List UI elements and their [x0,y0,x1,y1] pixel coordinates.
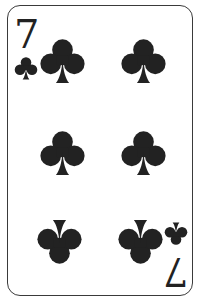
club-icon [36,219,83,266]
club-icon [120,129,167,176]
club-icon [39,37,86,84]
club-icon [117,219,164,266]
club-icon [164,222,188,246]
corner-rank-top-left: 7 [14,14,39,54]
corner-rank-bottom-right: 7 [163,252,188,292]
club-icon [120,37,167,84]
club-icon [14,56,38,80]
club-icon [39,129,86,176]
